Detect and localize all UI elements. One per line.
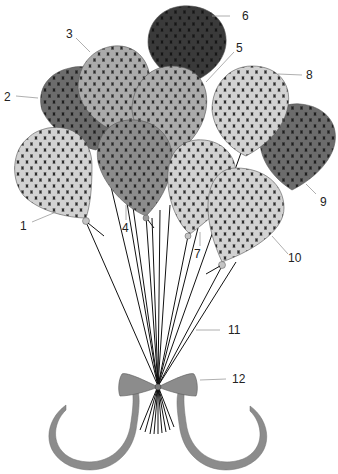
- callout-6: 6: [242, 9, 249, 23]
- balloons: [15, 6, 336, 274]
- callout-10: 10: [288, 251, 302, 265]
- callout-4: 4: [122, 221, 129, 235]
- callout-9: 9: [320, 195, 327, 209]
- callout-5: 5: [236, 41, 243, 55]
- bow-knot: [155, 384, 161, 390]
- balloon-4: [97, 120, 172, 216]
- ribbon-left-curl: [49, 388, 139, 470]
- callout-8: 8: [306, 68, 313, 82]
- callout-1: 1: [20, 219, 27, 233]
- callout-12: 12: [232, 372, 246, 386]
- balloon-10: [208, 168, 284, 262]
- callout-11: 11: [228, 323, 241, 337]
- callout-7: 7: [194, 247, 201, 261]
- balloon-1: [15, 127, 92, 218]
- ribbon-right-curl: [177, 388, 267, 470]
- callout-3: 3: [66, 27, 73, 41]
- balloon-7-knot: [185, 233, 191, 239]
- callout-2: 2: [4, 90, 11, 104]
- balloon-bouquet-figure: 1 2 3 4 5 6 7 8 9 10 11 12: [0, 0, 338, 474]
- balloon-10-knot: [219, 262, 226, 269]
- bow-left-loop: [119, 374, 158, 396]
